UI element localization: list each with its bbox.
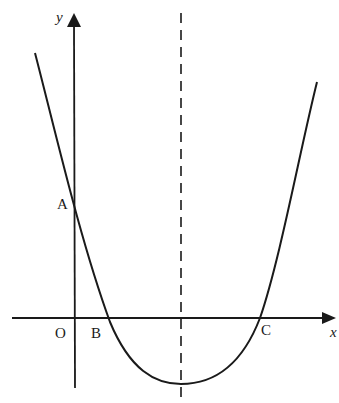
point-a-label: A [57,196,68,212]
x-axis-arrow-icon [322,312,336,324]
parabola-diagram: y x O A B C [0,0,339,403]
x-axis-label: x [329,324,337,340]
origin-label: O [55,325,66,341]
y-axis-arrow-icon [67,13,81,27]
diagram-canvas: y x O A B C [0,0,339,403]
parabola-curve [35,53,317,384]
point-c-label: C [261,322,271,338]
y-axis-label: y [54,9,63,25]
point-b-label: B [91,325,101,341]
